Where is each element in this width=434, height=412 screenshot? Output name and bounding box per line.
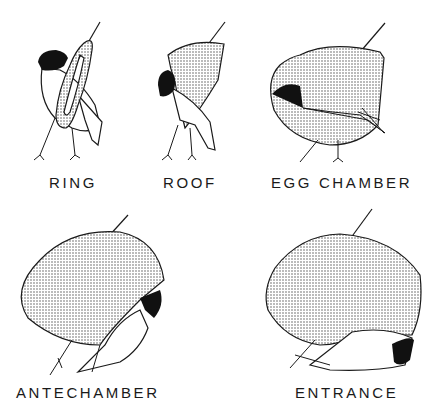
stage-label-egg-chamber: EGG CHAMBER (271, 174, 412, 191)
stage-label-entrance: ENTRANCE (295, 384, 398, 401)
stage-label-antechamber: ANTECHAMBER (16, 384, 160, 401)
egg-chamber-stage-illustration (271, 23, 385, 162)
entrance-stage-illustration (266, 209, 421, 370)
nest-entrance-icon (266, 234, 421, 345)
nest-building-diagram (0, 0, 434, 412)
antechamber-stage-illustration (21, 215, 164, 375)
bird-head-icon (38, 50, 68, 71)
ring-stage-illustration (34, 22, 102, 160)
stage-label-ring: RING (49, 174, 97, 191)
bird-legs-icon (162, 125, 196, 160)
stage-label-roof: ROOF (163, 174, 217, 191)
roof-stage-illustration (158, 22, 225, 160)
